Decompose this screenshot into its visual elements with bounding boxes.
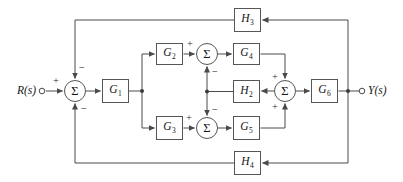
block-g6: G6 xyxy=(311,79,338,103)
block-h2-subscript: 2 xyxy=(249,90,253,99)
block-g3: G3 xyxy=(156,116,183,140)
summing-junction-upper-sigma: Σ xyxy=(203,47,210,60)
block-g5-symbol: G xyxy=(240,120,248,132)
sign-plus-g4-input: + xyxy=(272,72,278,83)
block-h3-label: H3 xyxy=(241,13,254,27)
block-g1: G1 xyxy=(102,79,129,103)
block-g4-symbol: G xyxy=(240,46,248,58)
input-terminal xyxy=(39,88,45,94)
block-g1-subscript: 1 xyxy=(118,89,122,98)
block-h2-label: H2 xyxy=(240,85,253,99)
output-label: Y(s) xyxy=(368,85,387,97)
block-g3-symbol: G xyxy=(163,120,171,132)
block-g5-label: G5 xyxy=(240,121,253,135)
sign-minus-h4-feedback: − xyxy=(81,104,87,115)
block-g2-symbol: G xyxy=(163,46,171,58)
block-h4-symbol: H xyxy=(241,155,249,167)
block-h3-subscript: 3 xyxy=(250,18,254,27)
block-g2-subscript: 2 xyxy=(172,52,176,61)
sign-plus-g5-input: + xyxy=(272,102,278,113)
block-h3: H3 xyxy=(234,8,261,32)
block-g1-label: G1 xyxy=(109,84,122,98)
block-g3-label: G3 xyxy=(163,121,176,135)
summing-junction-output: Σ xyxy=(274,80,296,102)
summing-junction-lower-sigma: Σ xyxy=(203,121,210,134)
block-diagram: R(s) Y(s) Σ Σ Σ Σ G1 G2 G3 G4 G5 G6 H2 H… xyxy=(0,0,403,182)
block-g4-subscript: 4 xyxy=(249,52,253,61)
summing-junction-lower: Σ xyxy=(196,117,218,139)
sign-plus-g3-input: + xyxy=(186,113,192,124)
block-h2: H2 xyxy=(233,80,260,103)
block-g4-label: G4 xyxy=(240,47,253,61)
branch-node-after-g1 xyxy=(140,89,144,93)
summing-junction-input-sigma: Σ xyxy=(71,84,78,97)
block-g5: G5 xyxy=(233,116,260,140)
block-h3-symbol: H xyxy=(241,12,249,24)
sign-minus-h2-upper: − xyxy=(212,67,218,78)
block-g1-symbol: G xyxy=(109,83,117,95)
sign-minus-h3-feedback: − xyxy=(79,63,85,74)
output-terminal xyxy=(359,88,365,94)
block-g4: G4 xyxy=(233,43,260,65)
sign-plus-r-input: + xyxy=(53,76,59,87)
summing-junction-upper: Σ xyxy=(196,43,218,65)
summing-junction-output-sigma: Σ xyxy=(281,84,288,97)
summing-junction-input: Σ xyxy=(64,80,86,102)
block-h4-subscript: 4 xyxy=(250,161,254,170)
block-h4: H4 xyxy=(234,151,261,175)
block-g2: G2 xyxy=(156,43,183,65)
input-label: R(s) xyxy=(17,85,36,97)
block-h4-label: H4 xyxy=(241,156,254,170)
sign-plus-g2-input: + xyxy=(187,39,193,50)
block-g5-subscript: 5 xyxy=(249,126,253,135)
diagram-wires xyxy=(0,0,403,182)
branch-node-h2 xyxy=(205,90,209,94)
block-g6-label: G6 xyxy=(318,84,331,98)
branch-node-output xyxy=(346,89,350,93)
block-g3-subscript: 3 xyxy=(172,126,176,135)
sign-minus-h2-lower: − xyxy=(212,105,218,116)
block-g6-symbol: G xyxy=(318,83,326,95)
block-g6-subscript: 6 xyxy=(327,89,331,98)
block-h2-symbol: H xyxy=(240,84,248,96)
block-g2-label: G2 xyxy=(163,47,176,61)
